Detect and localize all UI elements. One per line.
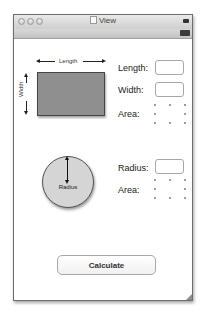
radius-input[interactable] [155,159,184,174]
radius-label: Radius: [118,163,149,173]
arrowhead-down-icon [24,111,28,115]
length-label: Length: [118,63,148,73]
resize-grip-icon[interactable] [186,294,192,300]
length-diagram-label: Length [59,58,77,64]
width-arrow-down-icon [26,101,27,111]
window-title: View [14,16,192,25]
arrowhead-right-icon [102,59,106,63]
circle-area-label: Area: [118,185,140,195]
width-input[interactable] [155,82,184,97]
radius-arrow-icon [67,158,68,182]
calculate-button[interactable]: Calculate [57,255,156,275]
arrowhead-up-icon [24,73,28,77]
circle-area-output [154,179,186,200]
arrowhead-left-icon [36,59,40,63]
radius-arrowhead-up-icon [65,156,69,160]
radius-diagram-label: Radius [47,184,89,190]
length-arrow-right-icon [83,61,103,62]
title-bar[interactable]: View [14,15,192,30]
toolbar-item-icon[interactable] [180,30,190,36]
toolbar [14,29,192,39]
content-area: Length Width Length: Width: Area: Rad [14,39,192,300]
app-window: View Length Width Length: Width: Area: [13,14,193,301]
document-icon [90,16,97,24]
length-input[interactable] [155,60,184,75]
rect-area-output [154,104,186,125]
rect-area-label: Area: [118,109,140,119]
toolbar-toggle-button[interactable] [183,19,189,23]
window-title-text: View [99,16,116,25]
rectangle-shape [37,72,105,116]
width-diagram-label: Width [18,82,24,97]
width-label: Width: [118,85,144,95]
